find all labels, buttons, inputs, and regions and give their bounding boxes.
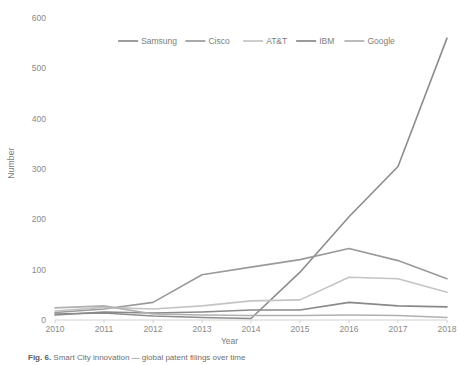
y-tick-label: 300 [32,164,46,174]
y-tick-label: 400 [32,114,46,124]
legend-label-samsung: Samsung [141,36,177,46]
x-tick-label: 2012 [144,324,163,334]
axis-lines [55,320,447,323]
figure-caption-text: Smart City innovation — global patent fi… [53,353,245,362]
figure-caption-prefix: Fig. 6. [28,353,51,362]
series-lines [55,38,447,318]
series-line-samsung [55,38,447,318]
legend-label-ibm: IBM [319,36,334,46]
y-axis-tick-labels: 0100200300400500600 [32,13,46,325]
line-chart-svg: 0100200300400500600 20102011201220132014… [0,0,459,345]
x-axis-tick-labels: 201020112012201320142015201620172018 [46,324,457,334]
x-tick-label: 2015 [291,324,310,334]
legend-label-google: Google [367,36,395,46]
x-tick-label: 2010 [46,324,65,334]
figure-caption: Fig. 6. Smart City innovation — global p… [28,353,459,365]
x-tick-label: 2013 [193,324,212,334]
y-tick-label: 600 [32,13,46,23]
y-tick-label: 500 [32,63,46,73]
legend-label-at-t: AT&T [266,36,287,46]
series-line-cisco [55,249,447,313]
y-tick-label: 200 [32,214,46,224]
x-tick-label: 2011 [95,324,114,334]
y-tick-label: 100 [32,265,46,275]
chart-area: 0100200300400500600 20102011201220132014… [0,0,459,345]
figure-container: 0100200300400500600 20102011201220132014… [0,0,459,365]
x-axis-title: Year [0,336,459,346]
x-tick-label: 2017 [389,324,408,334]
x-tick-label: 2014 [242,324,261,334]
y-axis-title: Number [6,147,16,178]
legend-label-cisco: Cisco [208,36,230,46]
x-tick-label: 2018 [438,324,457,334]
x-tick-label: 2016 [340,324,359,334]
chart-legend: SamsungCiscoAT&TIBMGoogle [118,36,395,46]
